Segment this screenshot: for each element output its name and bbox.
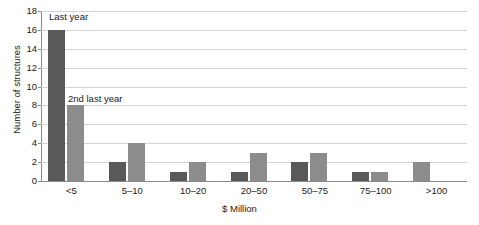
- y-axis-tick-label: 2: [32, 157, 37, 167]
- bar-group: 50–75: [284, 11, 345, 181]
- y-axis-tick-label: 16: [26, 25, 37, 35]
- bar: [291, 162, 308, 181]
- bar: [250, 153, 267, 181]
- x-axis-tick-label: 10–20: [163, 185, 224, 196]
- bar-chart: Number of structures 024681012141618 <55…: [0, 0, 479, 225]
- bar-group: >100: [406, 11, 467, 181]
- bar: [48, 30, 65, 181]
- y-axis-tick-label: 18: [26, 6, 37, 16]
- bar: [371, 172, 388, 181]
- x-axis-tick-label: 20–50: [224, 185, 285, 196]
- y-axis-tick-label: 14: [26, 44, 37, 54]
- bar-group: 10–20: [163, 11, 224, 181]
- bar-group: 75–100: [345, 11, 406, 181]
- y-axis-tick-label: 10: [26, 82, 37, 92]
- x-axis-tick-label: 50–75: [284, 185, 345, 196]
- y-axis-tick-label: 8: [32, 101, 37, 111]
- bar: [128, 143, 145, 181]
- annotation-2nd-last-year: 2nd last year: [68, 93, 122, 104]
- bar: [352, 172, 369, 181]
- bar-group: 20–50: [224, 11, 285, 181]
- x-axis-tick-label: 75–100: [345, 185, 406, 196]
- y-axis-tick-label: 6: [32, 120, 37, 130]
- bar: [413, 162, 430, 181]
- bar: [109, 162, 126, 181]
- x-axis-tick-label: <5: [41, 185, 102, 196]
- bar: [310, 153, 327, 181]
- bar: [67, 105, 84, 181]
- y-axis-tick-label: 12: [26, 63, 37, 73]
- annotation-last-year: Last year: [49, 11, 88, 22]
- x-axis-title: $ Million: [0, 203, 479, 214]
- bar: [170, 172, 187, 181]
- y-axis-tick-label: 0: [32, 176, 37, 186]
- y-axis-tick-mark: [38, 181, 41, 182]
- x-axis-tick-label: >100: [406, 185, 467, 196]
- x-axis-line: [41, 181, 467, 182]
- y-axis-title: Number of structures: [11, 30, 22, 150]
- y-axis-tick-label: 4: [32, 138, 37, 148]
- bar: [231, 172, 248, 181]
- x-axis-tick-label: 5–10: [102, 185, 163, 196]
- bar: [189, 162, 206, 181]
